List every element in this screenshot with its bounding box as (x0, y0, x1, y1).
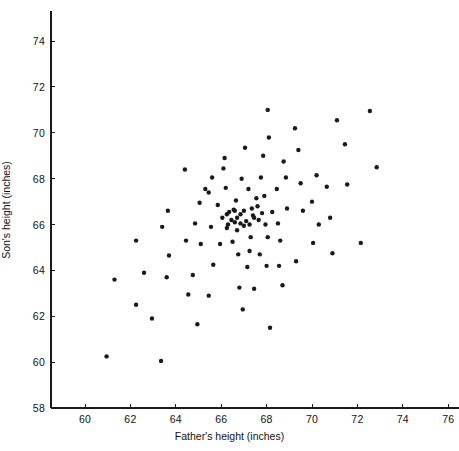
y-tick-label: 66 (25, 219, 45, 231)
data-point (247, 222, 251, 226)
data-point (221, 166, 225, 170)
data-point (238, 212, 242, 216)
data-point (261, 154, 265, 158)
data-point (211, 262, 215, 266)
data-point (260, 211, 264, 215)
x-tick-label: 70 (306, 413, 318, 425)
y-tick-label: 68 (25, 173, 45, 185)
y-tick-label: 62 (25, 310, 45, 322)
data-point (268, 326, 272, 330)
data-point (209, 225, 213, 229)
data-point (237, 285, 241, 289)
y-tick-label: 72 (25, 81, 45, 93)
data-point (191, 273, 195, 277)
x-tick-label: 66 (215, 413, 227, 425)
data-point (243, 146, 247, 150)
data-point (247, 249, 251, 253)
data-point (325, 185, 329, 189)
data-point (235, 228, 239, 232)
data-point (250, 206, 254, 210)
data-point (267, 135, 271, 139)
data-point (193, 221, 197, 225)
data-point (328, 215, 332, 219)
data-point (259, 175, 263, 179)
data-point (197, 201, 201, 205)
data-point (374, 165, 378, 169)
data-point (262, 194, 266, 198)
data-point (296, 148, 300, 152)
data-point (230, 240, 234, 244)
axis-lines (51, 11, 459, 408)
data-point (167, 253, 171, 257)
y-tick-label: 64 (25, 264, 45, 276)
data-point (301, 209, 305, 213)
data-point (233, 220, 237, 224)
data-point (345, 182, 349, 186)
data-point (186, 292, 190, 296)
data-point (359, 241, 363, 245)
data-point (150, 316, 154, 320)
y-axis-title-text: Son's height (inches) (0, 161, 12, 259)
data-point (112, 277, 116, 281)
data-point (284, 175, 288, 179)
data-point-group (104, 108, 379, 363)
data-point (235, 215, 239, 219)
data-point (216, 203, 220, 207)
data-point (266, 108, 270, 112)
data-point (207, 190, 211, 194)
data-point (224, 186, 228, 190)
data-point (184, 238, 188, 242)
data-point (242, 209, 246, 213)
data-point (266, 235, 270, 239)
data-point (226, 222, 230, 226)
data-point (242, 224, 246, 228)
y-tick-label: 58 (25, 402, 45, 414)
data-point (142, 271, 146, 275)
data-point (281, 159, 285, 163)
data-point (195, 322, 199, 326)
data-point (314, 173, 318, 177)
data-point (368, 109, 372, 113)
data-point (252, 215, 256, 219)
y-tick-label: 60 (25, 356, 45, 368)
data-point (285, 206, 289, 210)
data-point (249, 235, 253, 239)
data-point (233, 209, 237, 213)
data-point (275, 187, 279, 191)
data-point (276, 221, 280, 225)
data-point (220, 215, 224, 219)
data-point (270, 210, 274, 214)
data-point (258, 252, 262, 256)
data-point (298, 181, 302, 185)
data-point (159, 359, 163, 363)
x-tick-label: 62 (124, 413, 136, 425)
data-point (278, 238, 282, 242)
data-point (294, 259, 298, 263)
data-point (255, 204, 259, 208)
data-point (210, 175, 214, 179)
x-tick-label: 74 (397, 413, 409, 425)
scatter-plot-figure: 606264666870727476 586062646668707274 Fa… (0, 0, 459, 451)
data-point (239, 177, 243, 181)
data-point (264, 264, 268, 268)
data-point (310, 199, 314, 203)
data-point (317, 222, 321, 226)
data-point (236, 252, 240, 256)
data-point (160, 225, 164, 229)
plot-canvas (0, 0, 459, 451)
data-point (254, 196, 258, 200)
data-point (166, 209, 170, 213)
data-point (222, 156, 226, 160)
x-tick-label: 60 (79, 413, 91, 425)
data-point (245, 265, 249, 269)
data-point (343, 142, 347, 146)
y-tick-label: 70 (25, 127, 45, 139)
data-point (104, 354, 108, 358)
x-tick-label: 64 (170, 413, 182, 425)
data-point (252, 287, 256, 291)
data-point (183, 167, 187, 171)
data-point (218, 242, 222, 246)
data-point (311, 241, 315, 245)
data-point (246, 187, 250, 191)
data-point (244, 219, 248, 223)
